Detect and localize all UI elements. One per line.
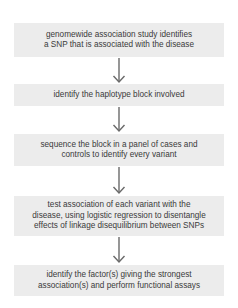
down-arrow-icon [112,237,126,264]
step-gwas: genomewide association study identifies … [14,23,224,57]
down-arrow-icon [112,107,126,133]
down-arrow-icon [112,167,126,195]
step-label: test association of each variant with th… [32,200,205,232]
step-test-association: test association of each variant with th… [14,196,224,236]
down-arrow-icon [112,58,126,84]
step-sequence-block: sequence the block in a panel of cases a… [14,134,224,166]
step-label: identify the haplotype block involved [53,90,184,101]
step-label: sequence the block in a panel of cases a… [40,140,197,161]
step-haplotype-block: identify the haplotype block involved [14,84,224,106]
step-label: identify the factor(s) giving the strong… [38,270,200,291]
step-label: genomewide association study identifies … [44,30,194,51]
step-functional-assays: identify the factor(s) giving the strong… [14,265,224,296]
